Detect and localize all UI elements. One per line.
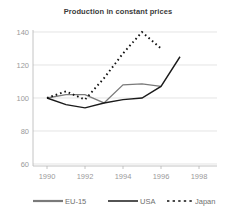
data-series-group [47,32,180,108]
xtick-label-1994: 1994 [115,172,132,181]
chart-plot-area: 140 120 100 80 60 1990 1992 1994 1996 19… [0,0,236,217]
series-line-usa [47,57,180,108]
ytick-label-80: 80 [21,127,29,136]
ytick-label-100: 100 [16,94,29,103]
chart-container: Production in constant prices 140 120 10… [0,0,236,217]
xtick-label-1992: 1992 [77,172,94,181]
xtick-label-1996: 1996 [153,172,170,181]
xtick-label-1990: 1990 [39,172,56,181]
legend-label-eu-15: EU-15 [65,197,86,206]
ytick-label-60: 60 [21,160,29,169]
gridlines [33,32,217,164]
ytick-label-140: 140 [16,28,29,37]
x-tickmarks [47,166,199,169]
legend-label-usa: USA [140,197,155,206]
series-line-japan [47,32,161,100]
xtick-label-1998: 1998 [191,172,208,181]
ytick-label-120: 120 [16,61,29,70]
legend-label-japan: Japan [195,197,215,206]
chart-legend: EU-15 USA Japan [33,197,215,206]
series-line-eu-15 [47,84,161,103]
